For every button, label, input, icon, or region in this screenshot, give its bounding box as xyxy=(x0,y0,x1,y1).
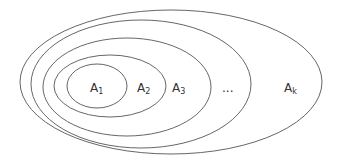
nested-sets-diagram: A1A2A3...Ak xyxy=(0,0,338,168)
set-label-ellipsisellipsisellipsis: ... xyxy=(222,81,233,95)
set-ellipse-Ak xyxy=(20,10,322,154)
set-label-A3: A3 xyxy=(172,81,185,96)
set-ellipse-A2 xyxy=(54,55,166,117)
set-label-A1: A1 xyxy=(90,81,103,96)
set-label-A2: A2 xyxy=(137,81,150,96)
diagram-svg: A1A2A3...Ak xyxy=(0,0,338,168)
set-label-Ak: Ak xyxy=(284,81,297,96)
